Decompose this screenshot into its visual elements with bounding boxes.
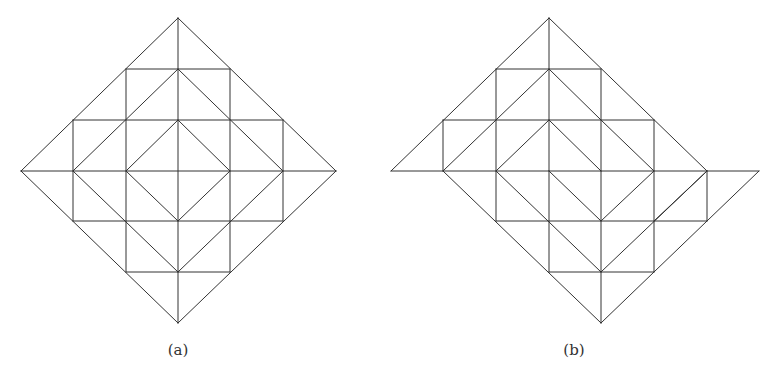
lattice-edge [178,18,336,171]
lattice-edge [549,171,601,221]
lattice-edge [549,120,601,171]
lattice-edge [178,171,230,221]
diagram-panel-b [391,18,759,323]
lattice-edge [126,120,178,171]
lattice-edge [126,171,178,221]
lattice-edge [549,69,601,120]
caption-b: (b) [563,341,584,359]
lattice-edge [601,171,654,221]
lattice-edge [654,171,707,221]
figure-canvas [0,0,765,381]
lattice-edge [391,18,549,171]
lattice-edge [21,171,178,323]
caption-a: (a) [168,341,189,359]
lattice-edge [707,171,759,221]
lattice-edge [178,120,230,171]
lattice-edge [21,18,178,171]
lattice-edge [178,171,336,323]
lattice-edge [549,18,707,171]
diagram-panel-a [21,18,336,323]
lattice-edge [443,171,601,323]
lattice-edge [496,120,549,171]
lattice-edge [601,120,654,171]
